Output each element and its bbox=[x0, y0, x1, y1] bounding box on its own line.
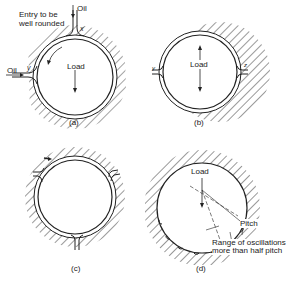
figure-d-caption: (d) bbox=[196, 264, 206, 273]
figure-a-entry-label: Entry to be well rounded bbox=[19, 10, 64, 28]
figure-d-pitch-label: Pitch bbox=[240, 219, 258, 228]
figure-d-range-label: Range of oscillations more than half pit… bbox=[212, 239, 286, 255]
figure-a-y-label: y bbox=[27, 63, 31, 72]
figure-b-caption: (b) bbox=[194, 118, 204, 127]
figure-a-load-label: Load bbox=[67, 62, 85, 71]
figure-a-oil-left-label: Oil bbox=[7, 66, 17, 75]
figure-b-load-label: Load bbox=[190, 60, 208, 69]
figure-d-load-label: Load bbox=[191, 167, 209, 176]
figure-a-x-label: x bbox=[80, 24, 84, 33]
bearing-oil-entry-diagram: Entry to be well rounded Oil Oil x y Loa… bbox=[0, 0, 295, 281]
figure-b-y-label: y bbox=[152, 64, 155, 73]
figure-a-oil-top-label: Oil bbox=[77, 4, 87, 13]
figure-c-caption: (c) bbox=[71, 264, 80, 273]
figure-b-z-label: z bbox=[244, 61, 247, 70]
figure-a-caption: (a) bbox=[69, 118, 79, 127]
entry-label-line1: Entry to be bbox=[19, 10, 64, 19]
figure-c-drawing bbox=[20, 145, 130, 250]
range-label-line2: more than half pitch bbox=[212, 247, 286, 255]
entry-label-line2: well rounded bbox=[19, 19, 64, 28]
figure-b-drawing bbox=[152, 20, 275, 125]
